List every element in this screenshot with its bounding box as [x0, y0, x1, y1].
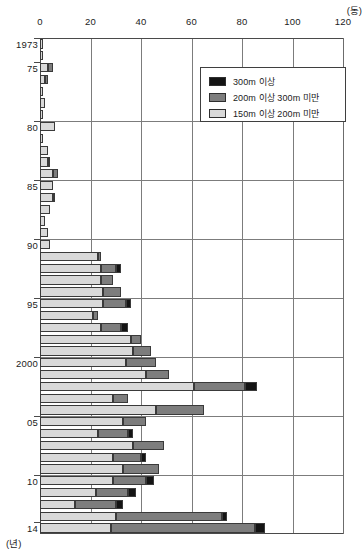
legend-item-150m: 150m 이상 200m 미만 — [209, 105, 345, 121]
bar-row — [40, 51, 343, 60]
bar-segment — [101, 323, 121, 332]
legend-label-200m: 200m 이상 300m 미만 — [233, 91, 319, 104]
bar-segment — [40, 323, 101, 332]
bar-segment — [128, 429, 133, 438]
bar-row — [40, 370, 343, 379]
legend-swatch-150m-icon — [209, 109, 226, 118]
bar-segment — [40, 51, 43, 60]
bar-segment — [255, 523, 265, 532]
bar-segment — [40, 216, 45, 225]
bar-segment — [194, 382, 245, 391]
y-tick-label: 95 — [27, 298, 38, 309]
bar-segment — [48, 157, 51, 166]
bar-segment — [40, 98, 45, 107]
bar-segment — [111, 523, 255, 532]
bar-segment — [103, 299, 126, 308]
bar-segment — [101, 275, 114, 284]
bar-row — [40, 228, 343, 237]
bar-segment — [40, 500, 75, 509]
bar-row — [40, 169, 343, 178]
bar-segment — [40, 311, 93, 320]
y-tick-label: 90 — [27, 239, 38, 250]
bar-segment — [40, 335, 131, 344]
bar-row — [40, 488, 343, 497]
bar-row — [40, 382, 343, 391]
bar-segment — [113, 476, 146, 485]
bar-row — [40, 134, 343, 143]
bar-segment — [131, 335, 141, 344]
bar-segment — [40, 382, 194, 391]
bar-chart: (동) 020406080100120 19737580859095200005… — [0, 0, 364, 556]
y-tick-label: 2000 — [16, 357, 38, 368]
bar-row — [40, 453, 343, 462]
bar-segment — [40, 228, 48, 237]
bar-segment — [40, 193, 53, 202]
bar-segment — [40, 87, 43, 96]
bar-segment — [133, 441, 163, 450]
bar-segment — [133, 346, 151, 355]
y-tick-label: 14 — [27, 523, 38, 534]
bar-row — [40, 216, 343, 225]
bar-row — [40, 252, 343, 261]
bar-segment — [156, 405, 204, 414]
bar-segment — [45, 75, 48, 84]
bar-segment — [40, 346, 133, 355]
bar-segment — [103, 287, 121, 296]
bar-segment — [40, 441, 133, 450]
bar-segment — [75, 500, 115, 509]
bar-segment — [146, 370, 169, 379]
bar-row — [40, 311, 343, 320]
bar-row — [40, 146, 343, 155]
bar-row — [40, 394, 343, 403]
bar-segment — [40, 523, 111, 532]
bar-row — [40, 405, 343, 414]
bar-row — [40, 358, 343, 367]
bar-segment — [40, 240, 50, 249]
bar-segment — [40, 370, 146, 379]
bar-row — [40, 299, 343, 308]
chart-legend: 300m 이상 200m 이상 300m 미만 150m 이상 200m 미만 — [200, 67, 346, 122]
legend-label-300m: 300m 이상 — [233, 75, 275, 88]
bar-segment — [40, 275, 101, 284]
bar-segment — [116, 264, 121, 273]
bar-segment — [116, 500, 124, 509]
y-tick-label: 85 — [27, 180, 38, 191]
bar-segment — [40, 429, 98, 438]
bar-row — [40, 429, 343, 438]
bar-row — [40, 193, 343, 202]
bar-segment — [96, 488, 129, 497]
y-tick-label: 05 — [27, 416, 38, 427]
y-axis-unit-label: (년) — [6, 536, 21, 550]
bar-segment — [128, 488, 136, 497]
bar-row — [40, 240, 343, 249]
bar-row — [40, 275, 343, 284]
bar-row — [40, 512, 343, 521]
bar-segment — [40, 299, 103, 308]
bar-segment — [48, 63, 53, 72]
bar-segment — [98, 429, 128, 438]
bar-segment — [40, 453, 113, 462]
bar-row — [40, 417, 343, 426]
x-tick-label: 40 — [136, 16, 147, 27]
bar-row — [40, 500, 343, 509]
bar-segment — [146, 476, 154, 485]
x-tick-label: 80 — [237, 16, 248, 27]
bar-segment — [123, 464, 158, 473]
bar-segment — [40, 39, 43, 48]
bar-segment — [40, 264, 101, 273]
bar-row — [40, 441, 343, 450]
legend-item-200m: 200m 이상 300m 미만 — [209, 89, 345, 105]
bar-segment — [40, 512, 116, 521]
bar-segment — [40, 464, 123, 473]
bar-segment — [40, 63, 48, 72]
y-tick-label: 75 — [27, 62, 38, 73]
bar-segment — [245, 382, 258, 391]
bar-segment — [40, 157, 48, 166]
bar-row — [40, 287, 343, 296]
bar-segment — [123, 417, 146, 426]
bar-row — [40, 157, 343, 166]
legend-swatch-200m-icon — [209, 93, 226, 102]
bar-segment — [40, 169, 53, 178]
bar-row — [40, 476, 343, 485]
x-tick-label: 0 — [37, 16, 42, 27]
